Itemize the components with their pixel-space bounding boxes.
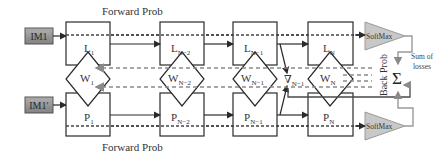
sum-symbol: Σ [392,69,402,88]
losses-label: losses [413,62,431,71]
siamese-network-diagram: Forward Prob Forward Prob IM1 IM1′ [0,0,444,157]
softmax-top-to-sum-line [398,36,412,64]
arrow-pn-1-to-gradient [280,86,287,115]
input-im1-prime-label: IM1′ [29,100,48,111]
input-im1-prime: IM1′ [25,97,53,113]
input-im1-label: IM1 [30,31,47,42]
sum-of-label: Sum of [411,52,433,61]
softmax-top: SoftMax [365,22,405,50]
forward-prob-label-bottom: Forward Prob [102,141,163,153]
forward-prob-label-top: Forward Prob [102,5,163,17]
softmax-bottom: SoftMax [365,112,405,140]
softmax-bottom-label: SoftMax [366,122,393,131]
back-prob-label: Back Prob [378,54,389,96]
softmax-top-label: SoftMax [366,32,393,41]
gradient-label: ∇N−1 [284,73,305,88]
input-im1: IM1 [25,28,53,44]
